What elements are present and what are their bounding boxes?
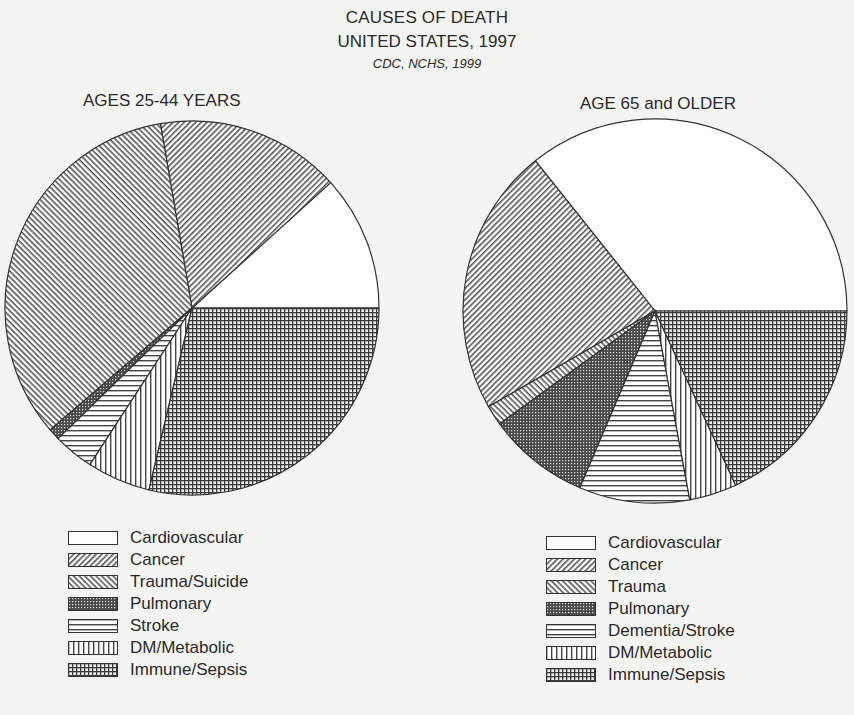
- swatch-blank-icon: [68, 531, 118, 545]
- swatch-crosshatch-icon: [68, 663, 118, 677]
- swatch-vertical-lines-icon: [68, 641, 118, 655]
- swatch-diagonal-up-icon: [546, 558, 596, 572]
- swatch-diagonal-down-icon: [68, 575, 118, 589]
- left-pie: [5, 121, 379, 495]
- pie-charts: [0, 0, 854, 715]
- swatch-horizontal-lines-icon: [546, 624, 596, 638]
- swatch-horizontal-lines-icon: [68, 619, 118, 633]
- swatch-dots-icon: [68, 597, 118, 611]
- swatch-crosshatch-icon: [546, 668, 596, 682]
- right-pie: [463, 119, 847, 503]
- swatch-dots-icon: [546, 602, 596, 616]
- swatch-diagonal-down-icon: [546, 580, 596, 594]
- swatch-blank-icon: [546, 536, 596, 550]
- swatch-diagonal-up-icon: [68, 553, 118, 567]
- swatch-vertical-lines-icon: [546, 646, 596, 660]
